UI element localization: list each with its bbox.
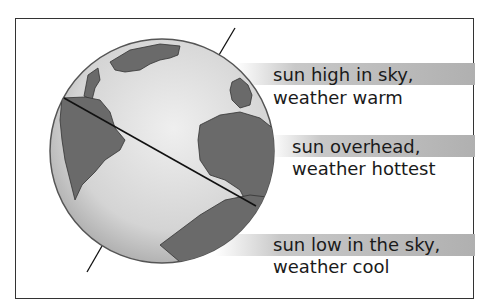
axis-south — [87, 246, 102, 272]
label-high-line1: sun high in sky, — [273, 64, 414, 86]
label-low-line2: weather cool — [273, 256, 389, 278]
axis-north — [219, 28, 235, 55]
label-overhead-line2: weather hottest — [292, 158, 436, 180]
label-overhead-line1: sun overhead, — [292, 136, 420, 158]
label-high-line2: weather warm — [273, 87, 403, 109]
label-low-line1: sun low in the sky, — [273, 234, 440, 256]
